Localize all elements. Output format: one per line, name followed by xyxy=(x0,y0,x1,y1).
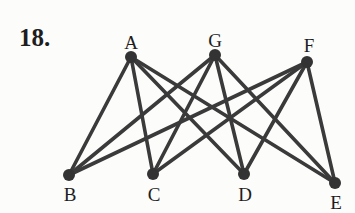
vertex-d xyxy=(238,168,250,180)
vertex-label-e: E xyxy=(330,192,342,213)
graph-nodes xyxy=(63,49,341,189)
vertex-e xyxy=(329,177,341,189)
vertex-c xyxy=(147,168,159,180)
graph-labels: AGFBCDE xyxy=(64,30,342,213)
edge-f-e xyxy=(307,62,335,183)
vertex-label-a: A xyxy=(124,32,138,53)
vertex-label-g: G xyxy=(208,30,222,51)
vertex-b xyxy=(63,169,75,181)
vertex-label-b: B xyxy=(64,184,77,205)
vertex-label-f: F xyxy=(304,35,315,56)
diagram-canvas: 18. AGFBCDE xyxy=(0,0,355,213)
bipartite-graph: AGFBCDE xyxy=(0,0,355,213)
edge-g-c xyxy=(153,55,215,174)
vertex-f xyxy=(301,56,313,68)
edge-a-b xyxy=(69,57,131,175)
vertex-label-c: C xyxy=(148,184,161,205)
graph-edges xyxy=(69,55,335,183)
vertex-label-d: D xyxy=(238,184,252,205)
